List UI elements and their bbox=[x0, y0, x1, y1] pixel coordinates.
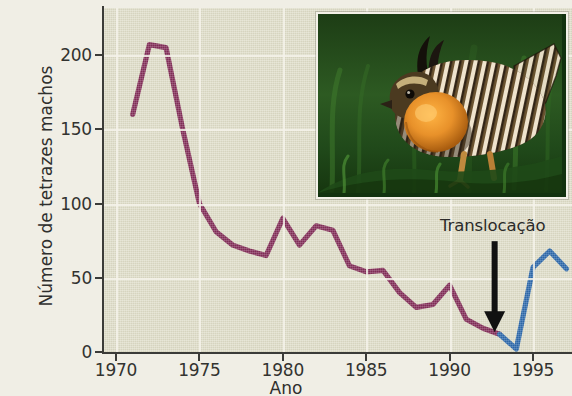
x-axis-tick-label: 1980 bbox=[262, 360, 304, 380]
translocation-annotation-label: Translocação bbox=[440, 216, 546, 235]
y-axis-tick-label: 50 bbox=[71, 268, 92, 288]
y-axis-tick bbox=[95, 203, 102, 205]
chart-figure: 200150100500 197019751980198519901995 Nú… bbox=[0, 0, 572, 396]
x-axis-tick-label: 1975 bbox=[178, 360, 220, 380]
y-axis-tick-label: 0 bbox=[81, 342, 92, 362]
y-axis-tick bbox=[95, 128, 102, 130]
x-axis-tick-label: 1990 bbox=[428, 360, 470, 380]
y-axis-tick-label: 150 bbox=[60, 119, 92, 139]
y-axis-tick bbox=[95, 54, 102, 56]
y-axis-tick-label: 200 bbox=[60, 45, 92, 65]
x-axis-tick-label: 1985 bbox=[345, 360, 387, 380]
y-axis-tick-label: 100 bbox=[60, 194, 92, 214]
x-axis-title: Ano bbox=[0, 378, 572, 396]
y-axis-tick bbox=[95, 277, 102, 279]
y-axis-title: Número de tetrazes machos bbox=[36, 36, 56, 336]
x-axis-tick-label: 1970 bbox=[95, 360, 137, 380]
bird-photo-inset bbox=[316, 12, 568, 199]
prairie-chicken-illustration bbox=[318, 14, 562, 193]
y-axis-tick bbox=[95, 351, 102, 353]
x-axis-tick-label: 1995 bbox=[512, 360, 554, 380]
y-axis-line bbox=[102, 6, 104, 354]
x-axis-line bbox=[102, 352, 572, 354]
